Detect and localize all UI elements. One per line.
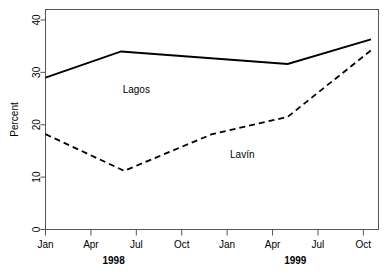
- x-tick-label: Jul: [130, 239, 143, 250]
- x-tick-label: Jul: [312, 239, 325, 250]
- y-axis: 010203040: [31, 14, 46, 232]
- y-tick-label: 10: [31, 171, 42, 183]
- y-axis-label-text: Percent: [9, 102, 20, 137]
- x-axis: JanAprJulOctJanAprJulOct: [37, 230, 371, 250]
- y-tick-label: 0: [31, 226, 42, 232]
- x-tick-label: Apr: [265, 239, 281, 250]
- x-axis-group-labels: 19981999: [102, 255, 306, 266]
- series-line-lavn: [46, 50, 371, 170]
- y-tick-label: 20: [31, 119, 42, 131]
- series-annotations: LagosLavín: [123, 84, 255, 160]
- y-tick-label: 40: [31, 14, 42, 26]
- plot-frame: [46, 10, 379, 230]
- x-tick-label: Jan: [219, 239, 235, 250]
- series-line-lagos: [46, 39, 371, 77]
- x-axis-year-label: 1998: [102, 255, 125, 266]
- series-label-lavn: Lavín: [230, 149, 254, 160]
- y-axis-title: Percent: [9, 102, 20, 137]
- x-tick-label: Jan: [37, 239, 53, 250]
- x-axis-year-label: 1999: [284, 255, 307, 266]
- chart-container: 010203040 JanAprJulOctJanAprJulOct Lagos…: [0, 0, 389, 276]
- x-tick-label: Apr: [83, 239, 99, 250]
- x-tick-label: Oct: [174, 239, 190, 250]
- line-chart: 010203040 JanAprJulOctJanAprJulOct Lagos…: [0, 0, 389, 276]
- series-label-lagos: Lagos: [123, 84, 150, 95]
- y-tick-label: 30: [31, 66, 42, 78]
- plot-border: [46, 10, 379, 230]
- series-lines: [46, 39, 371, 170]
- x-tick-label: Oct: [356, 239, 372, 250]
